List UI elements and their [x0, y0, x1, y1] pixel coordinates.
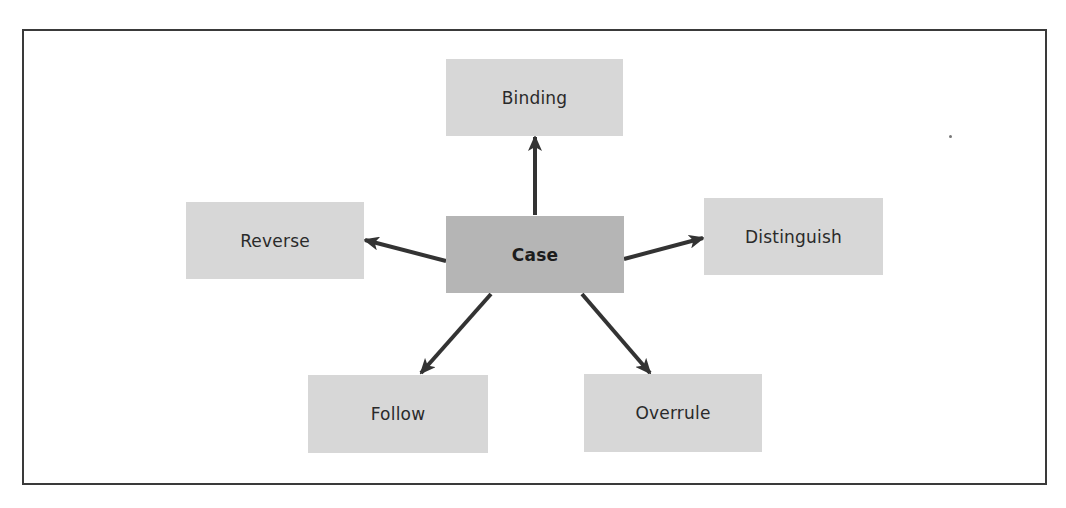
node-overrule-label: Overrule [635, 403, 710, 423]
node-distinguish: Distinguish [704, 198, 883, 275]
node-follow: Follow [308, 375, 488, 453]
node-reverse: Reverse [186, 202, 364, 279]
node-case-label: Case [512, 245, 558, 265]
node-binding: Binding [446, 59, 623, 136]
node-binding-label: Binding [502, 88, 568, 108]
node-distinguish-label: Distinguish [745, 227, 842, 247]
node-case: Case [446, 216, 624, 293]
scan-speck [949, 135, 952, 138]
node-reverse-label: Reverse [240, 231, 310, 251]
node-follow-label: Follow [371, 404, 426, 424]
node-overrule: Overrule [584, 374, 762, 452]
